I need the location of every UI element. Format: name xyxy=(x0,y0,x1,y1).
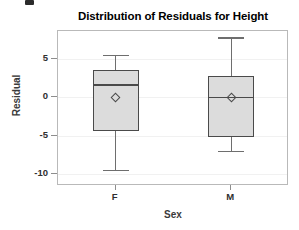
lower-whisker-stem xyxy=(231,137,232,150)
y-tick-label: -5 xyxy=(8,129,48,140)
gridline xyxy=(58,174,287,175)
box-m xyxy=(208,76,254,138)
lower-whisker-cap xyxy=(103,170,129,171)
upper-whisker-stem xyxy=(115,55,116,70)
median-line-f xyxy=(93,84,139,85)
lower-whisker-stem xyxy=(115,131,116,170)
y-tick-label: -10 xyxy=(8,167,48,178)
chart-title: Distribution of Residuals for Height xyxy=(57,10,289,22)
x-axis-label: Sex xyxy=(57,209,289,220)
plot-area xyxy=(57,30,288,185)
boxplot-chart: Distribution of Residuals for Height Res… xyxy=(0,0,299,230)
y-tick-mark xyxy=(51,96,57,97)
x-tick-mark xyxy=(115,185,116,190)
x-tick-label: F xyxy=(95,191,135,202)
y-tick-label: 0 xyxy=(8,90,48,101)
lower-whisker-cap xyxy=(218,151,244,152)
y-tick-label: 5 xyxy=(8,52,48,63)
y-tick-mark xyxy=(51,58,57,59)
gridline xyxy=(58,59,287,60)
upper-whisker-cap xyxy=(218,37,244,38)
x-tick-label: M xyxy=(210,191,250,202)
upper-whisker-stem xyxy=(231,37,232,76)
scan-artifact-mark xyxy=(25,0,34,5)
x-tick-mark xyxy=(230,185,231,190)
y-tick-mark xyxy=(51,135,57,136)
upper-whisker-cap xyxy=(103,55,129,56)
y-tick-mark xyxy=(51,173,57,174)
